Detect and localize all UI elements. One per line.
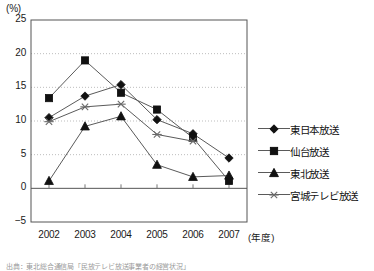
y-tick-label-25: 25 xyxy=(0,13,26,24)
legend-item-label: 東北放送 xyxy=(290,166,329,181)
data-point-2-5 xyxy=(225,171,234,179)
series-line-0 xyxy=(157,120,193,134)
cross-marker-icon-glyph xyxy=(267,188,281,202)
series-line-2 xyxy=(49,126,85,181)
diamond-marker-icon xyxy=(258,122,290,136)
chart-legend: 東日本放送仙台放送東北放送宮城テレビ放送 xyxy=(258,118,370,206)
triangle-marker-icon xyxy=(258,166,290,180)
y-tick-label-10: 10 xyxy=(0,114,26,125)
data-point-1-2 xyxy=(117,89,124,96)
legend-item-label: 仙台放送 xyxy=(290,144,329,159)
data-point-1-3 xyxy=(153,106,160,113)
legend-item-0[interactable]: 東日本放送 xyxy=(258,118,370,140)
data-point-0-1 xyxy=(81,92,89,100)
series-line-0 xyxy=(85,85,121,96)
series-line-1 xyxy=(157,110,193,138)
y-tick-label--5: −5 xyxy=(0,215,26,226)
y-tick-label-20: 20 xyxy=(0,47,26,58)
legend-item-1[interactable]: 仙台放送 xyxy=(258,140,370,162)
legend-item-3[interactable]: 宮城テレビ放送 xyxy=(258,184,370,206)
square-marker-icon-glyph xyxy=(267,144,281,158)
x-tick-label-2002: 2002 xyxy=(29,229,69,240)
data-point-2-2 xyxy=(117,112,126,120)
diamond-marker-icon-glyph xyxy=(267,122,281,136)
triangle-marker-icon-glyph xyxy=(267,166,281,180)
x-tick-label-2005: 2005 xyxy=(137,229,177,240)
x-tick-label-2003: 2003 xyxy=(65,229,105,240)
series-line-1 xyxy=(49,60,85,98)
series-line-0 xyxy=(121,85,157,120)
legend-item-label: 宮城テレビ放送 xyxy=(290,188,358,203)
x-axis-title: (年度) xyxy=(248,230,274,244)
y-tick-label-5: 5 xyxy=(0,148,26,159)
y-tick-label-0: 0 xyxy=(0,181,26,192)
cross-marker-icon xyxy=(258,188,290,202)
data-point-1-1 xyxy=(81,57,88,64)
source-footnote: 出典：東北総合通信局「民放テレビ放送事業者の経営状況」 xyxy=(6,261,190,271)
data-point-1-0 xyxy=(45,95,52,102)
legend-item-label: 東日本放送 xyxy=(290,122,339,137)
series-line-1 xyxy=(121,93,157,110)
series-line-1 xyxy=(85,60,121,92)
x-tick-label-2006: 2006 xyxy=(173,229,213,240)
y-tick-label-15: 15 xyxy=(0,80,26,91)
data-point-2-0 xyxy=(45,176,54,184)
series-line-2 xyxy=(121,116,157,164)
series-line-2 xyxy=(193,176,229,177)
series-line-2 xyxy=(157,165,193,177)
series-line-3 xyxy=(157,134,193,141)
series-line-3 xyxy=(85,104,121,107)
x-tick-label-2004: 2004 xyxy=(101,229,141,240)
series-line-3 xyxy=(121,104,157,134)
x-tick-label-2007: 2007 xyxy=(209,229,249,240)
legend-item-2[interactable]: 東北放送 xyxy=(258,162,370,184)
square-marker-icon xyxy=(258,144,290,158)
series-line-1 xyxy=(193,138,229,181)
